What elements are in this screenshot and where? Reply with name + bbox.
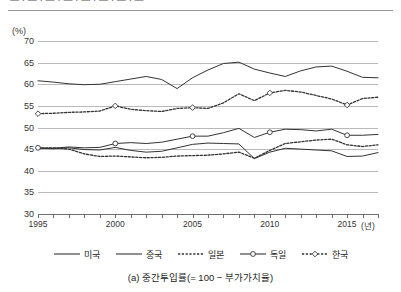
marker-독일 [190,134,195,139]
x-tick-label-1995: 1995 [29,219,48,229]
legend-item-미국[interactable]: 미국 [54,248,100,261]
marker-한국 [35,111,41,117]
x-tick-1998 [84,214,85,218]
x-tick-1995 [38,214,39,218]
legend-label-중국: 중국 [146,248,162,261]
y-tick-label-65: 65 [0,58,34,68]
x-tick-2003 [162,214,163,218]
series-layer [38,41,378,214]
marker-한국 [190,105,196,111]
legend-item-중국[interactable]: 중국 [116,248,162,261]
figure-caption: (a) 중간투입률(= 100 − 부가가치율) [0,270,401,284]
legend-swatch-중국 [116,249,142,259]
legend-label-한국: 한국 [332,248,348,261]
x-tick-2012 [301,214,302,218]
y-tick-label-70: 70 [0,36,34,46]
marker-한국 [344,102,350,108]
marker-한국 [112,103,118,109]
legend-label-독일: 독일 [270,248,286,261]
y-tick-label-45: 45 [0,144,34,154]
y-tick-label-60: 60 [0,79,34,89]
x-tick-2004 [177,214,178,218]
series-line-일본 [38,139,378,158]
x-tick-2005 [193,214,194,218]
legend-swatch-한국 [302,249,328,259]
plot-area [38,41,378,214]
x-tick-1996 [53,214,54,218]
x-tick-label-2005: 2005 [183,219,202,229]
x-tick-2013 [316,214,317,218]
y-tick-label-50: 50 [0,123,34,133]
x-tick-1997 [69,214,70,218]
legend-swatch-일본 [178,249,204,259]
series-line-중국 [38,62,378,88]
x-tick-2010 [270,214,271,218]
legend-label-일본: 일본 [208,248,224,261]
series-line-한국 [38,90,378,113]
x-tick-2009 [254,214,255,218]
x-tick-2014 [332,214,333,218]
legend-swatch-미국 [54,249,80,259]
x-tick-2007 [223,214,224,218]
x-axis-unit-label: (년) [361,219,375,231]
legend-swatch-독일 [240,249,266,259]
x-tick-label-2015: 2015 [338,219,357,229]
x-tick-2017 [378,214,379,218]
x-tick-1999 [100,214,101,218]
marker-독일 [267,130,272,135]
y-tick-label-40: 40 [0,166,34,176]
series-중국 [38,62,378,88]
x-tick-2008 [239,214,240,218]
legend-item-독일[interactable]: 독일 [240,248,286,261]
figure-container: — · — · — · — · — · — · — · — (%) 706560… [0,0,401,292]
x-tick-2006 [208,214,209,218]
legend-item-한국[interactable]: 한국 [302,248,348,261]
x-tick-2016 [363,214,364,218]
marker-독일 [36,145,41,150]
x-tick-2001 [131,214,132,218]
legend-item-일본[interactable]: 일본 [178,248,224,261]
cropped-heading-text: — · — · — · — · — · — · — · — [10,0,390,5]
chart-legend: 미국중국일본독일한국 [0,246,401,262]
x-tick-label-2010: 2010 [260,219,279,229]
legend-label-미국: 미국 [84,248,100,261]
series-일본 [38,139,378,158]
y-axis-unit-label: (%) [12,26,26,36]
y-tick-label-55: 55 [0,101,34,111]
x-tick-label-2000: 2000 [106,219,125,229]
x-axis-tick-labels: 19952000200520102015(년) [0,219,401,231]
series-한국 [35,90,378,116]
y-tick-label-30: 30 [0,209,34,219]
x-tick-2011 [285,214,286,218]
series-line-독일 [38,128,378,148]
marker-한국 [267,90,273,96]
x-tick-2002 [146,214,147,218]
y-axis-tick-labels: 706560555045403530 [0,41,34,214]
x-tick-2015 [347,214,348,218]
marker-독일 [113,141,118,146]
series-line-미국 [38,143,378,159]
horizontal-divider [8,10,393,11]
x-tick-2000 [115,214,116,218]
y-tick-label-35: 35 [0,187,34,197]
series-미국 [38,143,378,159]
marker-독일 [345,133,350,138]
